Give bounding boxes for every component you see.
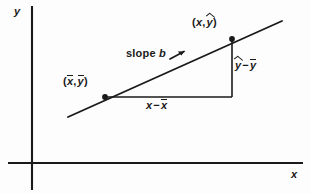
bar-accent (250, 59, 256, 60)
point-fitted-dot (229, 36, 235, 42)
slope-symbol: b (159, 47, 166, 59)
y-bar-symbol: y (250, 60, 256, 71)
slope-label: slope b (126, 48, 166, 59)
bar-accent (78, 75, 84, 76)
bar-accent (161, 99, 167, 100)
slope-arrow-icon (170, 51, 185, 59)
x-glyph: x (67, 75, 73, 87)
diagram-canvas (0, 0, 311, 194)
x-bar-symbol: x (67, 76, 73, 87)
y-glyph: y (250, 59, 256, 71)
y-glyph: y (78, 75, 84, 87)
x-axis-label: x (291, 169, 297, 180)
y-bar-symbol: y (78, 76, 84, 87)
point-means-dot (102, 94, 108, 100)
y-hat-symbol: y (207, 17, 213, 28)
point-fitted-label: (x, y) (192, 17, 217, 28)
x-glyph: x (161, 99, 167, 111)
rise-label: y−y (235, 60, 256, 71)
y-hat-symbol: y (235, 60, 241, 71)
run-label: x−x (146, 100, 167, 111)
regression-line-figure: y x (x, y) (x, y) slope b y−y x−x (0, 0, 311, 194)
x-bar-symbol: x (161, 100, 167, 111)
y-axis-label: y (14, 6, 20, 17)
bar-accent (67, 75, 73, 76)
minus-operator: − (241, 59, 250, 71)
slope-word: slope (126, 47, 156, 59)
point-means-label: (x, y) (63, 76, 88, 87)
paren-close: ) (84, 75, 88, 87)
minus-operator: − (152, 99, 161, 111)
